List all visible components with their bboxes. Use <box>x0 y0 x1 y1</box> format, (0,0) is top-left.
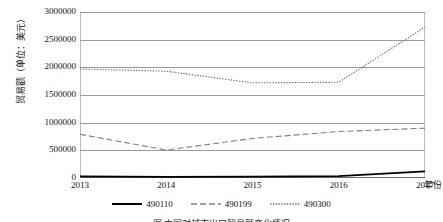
x-axis-tick-label: 2016 <box>330 180 348 190</box>
legend-swatch-dashed-icon <box>191 200 221 208</box>
plot-area <box>80 12 425 178</box>
y-axis-tick-label: 2500000 <box>14 35 76 44</box>
x-axis-tick-label: 2014 <box>157 180 175 190</box>
legend-swatch-solid-icon <box>112 200 142 208</box>
legend-item-490300[interactable]: 490300 <box>270 199 331 209</box>
x-axis-title: 年份 <box>424 180 442 190</box>
figure-caption-text: 图 中国对越南出口贸易额变化情况 <box>153 219 290 222</box>
series-line-490110 <box>80 171 425 176</box>
line-chart-figure: 贸易额（单位：美元） 05000001000000150000020000002… <box>0 0 443 222</box>
y-axis-tick-label: 1000000 <box>14 118 76 127</box>
y-axis-tick-label: 1500000 <box>14 90 76 99</box>
y-axis-tick-label: 3000000 <box>14 7 76 16</box>
legend-item-490110[interactable]: 490110 <box>112 199 173 209</box>
y-axis-tick-label: 0 <box>14 173 76 182</box>
legend-swatch-dotted-icon <box>270 200 300 208</box>
figure-caption: 图 中国对越南出口贸易额变化情况 <box>0 213 443 222</box>
x-axis-tick-label: 2013 <box>71 180 89 190</box>
chart-legend: 490110490199490300 <box>0 198 443 210</box>
x-axis-tick-label: 2015 <box>244 180 262 190</box>
y-axis-tick-labels: 0500000100000015000002000000250000030000… <box>14 0 76 222</box>
series-line-490300 <box>80 27 425 83</box>
legend-label: 490300 <box>304 199 331 209</box>
series-line-490199 <box>80 128 425 150</box>
y-axis-tick-label: 500000 <box>14 145 76 154</box>
legend-label: 490199 <box>225 199 252 209</box>
series-lines <box>80 12 425 178</box>
x-axis-tick-labels: 20132014201520162017 <box>80 180 425 194</box>
legend-item-490199[interactable]: 490199 <box>191 199 252 209</box>
legend-label: 490110 <box>146 199 173 209</box>
y-axis-tick-label: 2000000 <box>14 62 76 71</box>
